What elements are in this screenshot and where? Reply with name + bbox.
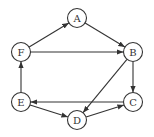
node-label: C — [129, 97, 137, 108]
edge-f-to-a — [29, 23, 69, 47]
node-b: B — [124, 43, 143, 62]
arrow-line — [85, 23, 125, 47]
node-f: F — [12, 43, 31, 62]
nodes-layer: ABCDEF — [12, 9, 143, 130]
edges-layer — [21, 23, 133, 117]
arrow-line — [30, 105, 68, 117]
node-label: B — [129, 47, 136, 58]
node-e: E — [12, 93, 31, 112]
node-label: A — [72, 13, 81, 24]
edge-d-to-c — [86, 105, 124, 117]
arrow-line — [83, 59, 127, 112]
node-label: E — [17, 97, 24, 108]
edge-b-to-d — [83, 59, 127, 112]
node-c: C — [124, 93, 143, 112]
edge-a-to-b — [85, 23, 125, 47]
node-label: F — [18, 47, 25, 58]
node-label: D — [73, 115, 81, 126]
arrow-line — [86, 105, 124, 117]
edge-e-to-d — [30, 105, 68, 117]
directed-graph: ABCDEF — [0, 0, 154, 137]
node-a: A — [68, 9, 87, 28]
node-d: D — [68, 111, 87, 130]
arrow-line — [29, 23, 69, 47]
